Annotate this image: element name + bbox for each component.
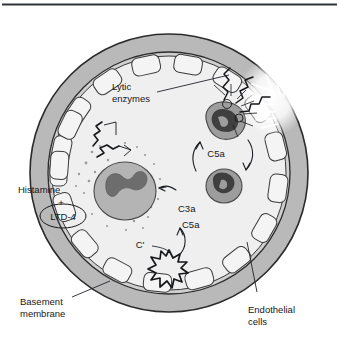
lytic-enzymes-label-line1: Lytic xyxy=(112,81,131,92)
lytic-enzymes-label-line2: enzymes xyxy=(112,93,150,104)
neutrophil-lower xyxy=(206,169,242,203)
inflammation-figure: Lytic enzymes Histamine + LTD-4 C3a C5a … xyxy=(0,0,339,347)
histamine-label: Histamine xyxy=(18,184,60,195)
c5a-center-label: C5a xyxy=(182,219,200,230)
mast-cell-cytoplasm xyxy=(94,162,156,220)
c5a-upper-label: C5a xyxy=(207,148,225,159)
top-rule xyxy=(2,4,337,6)
plus-sign-label: + xyxy=(58,197,64,208)
mast-cell xyxy=(94,162,156,220)
basement-membrane-label-line2: membrane xyxy=(20,308,65,319)
c3a-label: C3a xyxy=(178,203,196,214)
endothelial-cell xyxy=(267,173,289,203)
c-prime-label: C' xyxy=(136,239,145,250)
endothelial-cell xyxy=(49,151,69,180)
endothelial-cells-label-line1: Endothelial xyxy=(248,304,295,315)
endothelial-cells-label-line2: cells xyxy=(248,316,267,327)
ltd4-label: LTD-4 xyxy=(50,211,76,222)
basement-membrane-label-line1: Basement xyxy=(20,296,63,307)
figure-canvas: Lytic enzymes Histamine + LTD-4 C3a C5a … xyxy=(0,0,339,347)
